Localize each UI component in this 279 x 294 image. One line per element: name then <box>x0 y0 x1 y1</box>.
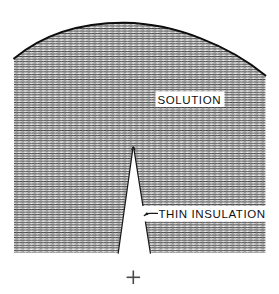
thin-insulation-label-group: THIN INSULATION <box>140 206 279 222</box>
plus-crosshair-icon <box>127 271 141 285</box>
figure-root: SOLUTION THIN INSULATION <box>0 0 279 294</box>
solution-label: SOLUTION <box>158 94 222 106</box>
thin-insulation-label: THIN INSULATION <box>159 208 266 220</box>
solution-vessel-diagram: SOLUTION THIN INSULATION <box>0 0 279 294</box>
solution-label-group: SOLUTION <box>156 92 225 108</box>
